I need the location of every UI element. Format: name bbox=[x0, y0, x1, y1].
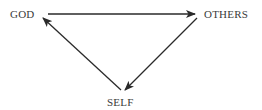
node-god-label: GOD bbox=[10, 9, 34, 20]
node-self-label: SELF bbox=[107, 97, 133, 108]
edge-others-to-self bbox=[125, 18, 197, 90]
node-others-label: OTHERS bbox=[204, 9, 248, 20]
god-others-self-diagram: GOD OTHERS SELF bbox=[0, 0, 262, 110]
edge-self-to-god bbox=[43, 18, 121, 90]
